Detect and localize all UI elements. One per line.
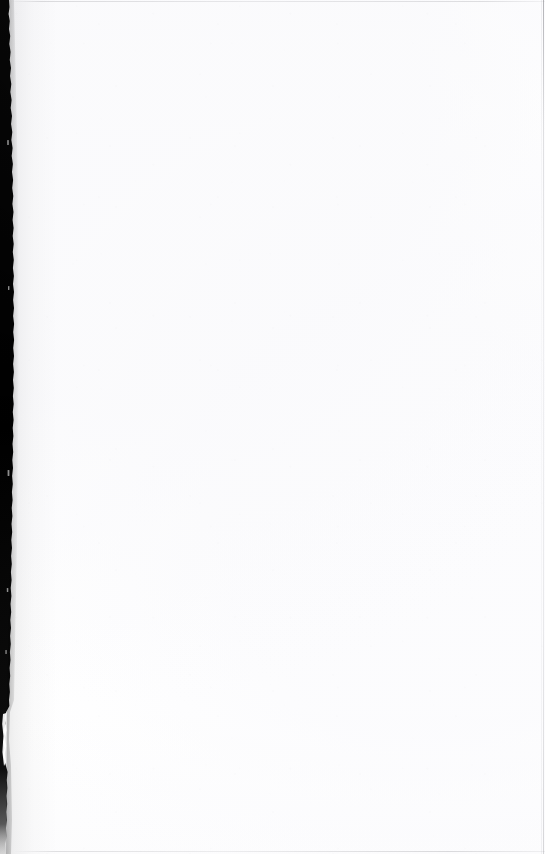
- scanned-page: [0, 0, 545, 854]
- scan-edge-rule-top: [10, 1, 545, 2]
- scan-edge-rule-right: [543, 0, 544, 854]
- scan-edge-rule-bottom: [14, 851, 545, 852]
- scan-edge-rule-right-inner: [541, 0, 542, 854]
- binding-gutter-shadow: [0, 0, 26, 854]
- page-content-area: [26, 6, 539, 848]
